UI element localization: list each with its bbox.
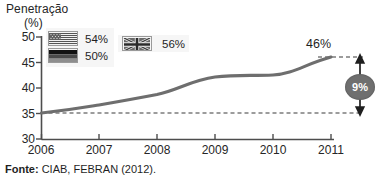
source-text: CIAB, FEBRAN (2012). xyxy=(39,163,156,175)
x-tick-label-2009: 2009 xyxy=(193,143,237,157)
end-value-label: 46% xyxy=(306,37,331,51)
legend-item-uk: 56% xyxy=(118,35,189,52)
x-axis-ticks xyxy=(42,134,332,140)
us-flag-icon xyxy=(48,31,78,46)
y-tick-label-35: 35 xyxy=(9,107,35,121)
source-label: Fonte: xyxy=(5,163,39,175)
y-tick-label-40: 40 xyxy=(9,81,35,95)
legend-value-us: 54% xyxy=(85,33,108,45)
y-tick-label-50: 50 xyxy=(9,30,35,44)
legend-value-uk: 56% xyxy=(162,38,185,50)
legend-value-germany: 50% xyxy=(85,50,108,62)
chart-legend: 54% 50% xyxy=(46,28,114,67)
x-tick-label-2010: 2010 xyxy=(251,143,295,157)
x-tick-label-2006: 2006 xyxy=(19,143,63,157)
x-tick-label-2008: 2008 xyxy=(135,143,179,157)
germany-flag-icon xyxy=(48,48,78,63)
legend-item-us: 54% xyxy=(48,30,108,47)
line-chart-plot xyxy=(0,0,384,160)
source-note: Fonte: CIAB, FEBRAN (2012). xyxy=(5,163,156,175)
x-tick-label-2007: 2007 xyxy=(77,143,121,157)
y-tick-label-45: 45 xyxy=(9,56,35,70)
gap-percentage-badge: 9% xyxy=(345,74,375,100)
legend-item-germany: 50% xyxy=(48,47,108,64)
y-axis-ticks xyxy=(36,37,42,139)
x-tick-label-2011: 2011 xyxy=(309,143,353,157)
uk-flag-icon xyxy=(122,36,152,51)
